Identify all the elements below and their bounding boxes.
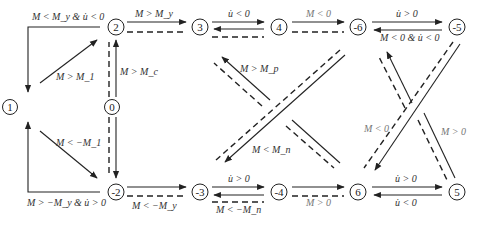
svg-text:-5: -5 xyxy=(452,21,462,33)
edge-neg4-to-6 xyxy=(292,187,344,196)
node-3: 3 xyxy=(192,19,208,35)
edge-0-to-neg2 xyxy=(109,117,116,178)
cond-neg2-to-1: M > −M_y & u̇ > 0 xyxy=(26,197,106,208)
edge-2-to-1 xyxy=(28,27,100,92)
node-neg6: -6 xyxy=(350,19,366,35)
node-6: 6 xyxy=(350,184,366,200)
svg-text:-4: -4 xyxy=(274,186,284,198)
edge-3-4-pair xyxy=(212,22,264,37)
cond-2-to-1: M < M_y & u̇ < 0 xyxy=(31,11,104,22)
cond-neg6-to-neg5: u̇ > 0 xyxy=(396,8,418,19)
svg-text:4: 4 xyxy=(276,21,282,33)
cond-5-to-6: u̇ < 0 xyxy=(395,197,417,208)
cond-1-to-2: M > M_1 xyxy=(55,71,94,82)
node-2: 2 xyxy=(108,19,124,35)
cond-6-to-5: u̇ > 0 xyxy=(395,173,417,184)
node-4: 4 xyxy=(271,19,287,35)
edge-neg6-neg5-pair xyxy=(372,22,442,30)
node-neg3: -3 xyxy=(192,184,208,200)
cond-0-to-2: M > M_c xyxy=(119,66,158,77)
svg-text:-3: -3 xyxy=(195,186,205,198)
cond-mid-up: M > M_p xyxy=(239,63,278,74)
svg-text:1: 1 xyxy=(7,101,13,113)
edge-0-to-2 xyxy=(109,40,116,97)
svg-text:-6: -6 xyxy=(353,21,363,33)
edge-2-to-3 xyxy=(127,22,186,32)
edge-neg3-neg4-pair xyxy=(212,187,264,202)
edge-4-to-neg6 xyxy=(292,22,344,32)
node-0: 0 xyxy=(105,100,120,115)
state-transition-diagram: 1 0 2 -2 3 -3 4 -4 -6 6 -5 5 xyxy=(0,0,486,226)
cond-neg4-to-neg3: M < −M_n xyxy=(215,204,261,215)
cond-neg5-to-neg6: M < 0 & u̇ < 0 xyxy=(379,32,440,43)
edge-neg2-to-1 xyxy=(28,122,100,192)
edge-right-x-up xyxy=(378,52,455,180)
cond-2-to-3: M > M_y xyxy=(134,8,173,19)
cond-mid-down: M < M_n xyxy=(251,144,290,155)
cond-neg3-to-neg4: u̇ > 0 xyxy=(228,173,250,184)
svg-text:-2: -2 xyxy=(111,186,120,198)
node-neg5: -5 xyxy=(449,19,465,35)
svg-text:2: 2 xyxy=(113,21,119,33)
svg-text:6: 6 xyxy=(355,186,361,198)
edge-neg2-to-neg3 xyxy=(127,187,186,196)
edge-6-5-pair xyxy=(372,187,442,195)
cond-4-to-neg6: M < 0 xyxy=(305,8,331,19)
cond-3-to-4: u̇ < 0 xyxy=(228,8,250,19)
cond-neg2-to-neg3: M < −M_y xyxy=(131,200,177,211)
cond-right-up: M > 0 xyxy=(440,126,466,137)
edge-right-x-down xyxy=(364,42,460,170)
cond-1-to-neg2: M < −M_1 xyxy=(55,137,101,148)
svg-text:5: 5 xyxy=(454,186,460,198)
svg-text:3: 3 xyxy=(197,21,203,33)
node-5: 5 xyxy=(449,184,465,200)
svg-text:0: 0 xyxy=(109,101,115,113)
node-neg2: -2 xyxy=(108,184,124,200)
node-1: 1 xyxy=(3,100,18,115)
node-neg4: -4 xyxy=(271,184,287,200)
cond-right-down: M < 0 xyxy=(363,123,389,134)
diagram-canvas: 1 0 2 -2 3 -3 4 -4 -6 6 -5 5 xyxy=(0,0,486,226)
cond-neg4-to-6: M > 0 xyxy=(305,197,331,208)
